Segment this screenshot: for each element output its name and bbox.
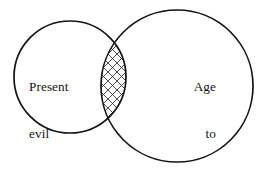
label-left-line-2: evil: [29, 126, 69, 142]
venn-diagram: Present evil age Age to come: [0, 0, 266, 174]
label-present-evil-age: Present evil age: [29, 48, 69, 174]
label-right-line-3: come: [156, 172, 216, 174]
label-age-to-come: Age to come: [156, 48, 216, 174]
label-right-line-1: Age: [156, 79, 216, 95]
label-left-line-1: Present: [29, 79, 69, 95]
label-left-line-3: age: [29, 172, 69, 174]
label-right-line-2: to: [156, 126, 216, 142]
